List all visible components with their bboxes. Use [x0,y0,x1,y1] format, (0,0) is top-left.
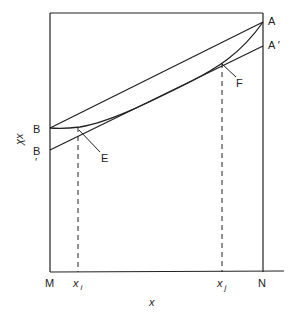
label-B: B [33,123,40,135]
chord-BA [50,22,263,128]
diagram-canvas: A A ′ B B ′ E F M N xi xj x χx [0,0,296,320]
x-axis-label: x [148,296,155,308]
label-xj: xj [216,277,227,292]
label-A-prime: A ′ [268,39,280,51]
F-leader [222,64,236,77]
label-E: E [101,152,108,164]
label-A: A [268,15,276,27]
E-leader [79,130,100,152]
label-M: M [45,277,54,289]
label-B-prime-mark: ′ [35,156,37,168]
label-xi: xi [72,277,83,292]
y-axis-label: χx [13,133,25,146]
label-N: N [258,277,266,289]
x-axis [50,271,284,272]
label-F: F [236,77,243,89]
